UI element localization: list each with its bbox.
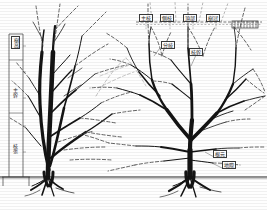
diagram-canvas: 樹高 主幹 枝張 主枝 側枝 頂部 樹冠 分岐 枝幹 根元 地際 — [0, 0, 267, 210]
callout-label-fork: 分岐 — [161, 41, 175, 49]
callout-label-lateral-branch: 側枝 — [160, 14, 174, 22]
scale-header-label: 樹高 — [11, 36, 20, 49]
callout-label-branch-trunk: 枝幹 — [189, 48, 203, 56]
callout-label-crown: 樹冠 — [206, 14, 220, 22]
scale-segment-label-1: 主幹 — [12, 88, 17, 98]
callout-label-main-branch: 主枝 — [139, 14, 153, 22]
ground-line — [0, 177, 267, 179]
vertical-scale-bar — [2, 34, 30, 186]
callout-label-ground-contact: 地際 — [222, 161, 236, 169]
callout-label-root-collar: 根元 — [213, 150, 227, 158]
callout-label-apex: 頂部 — [183, 14, 197, 22]
scale-segment-label-2: 枝張 — [12, 144, 17, 154]
left-tree-solid — [26, 22, 112, 177]
diagram-drawing — [0, 0, 267, 210]
